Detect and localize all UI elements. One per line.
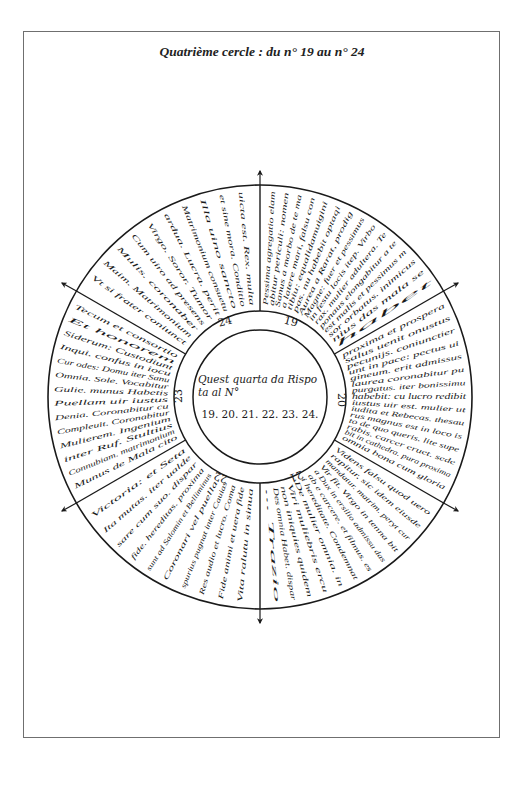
center-line-1: Quest quarta da Rispo	[198, 373, 317, 386]
sector-number-20: 20	[335, 393, 348, 407]
arrow-ene	[444, 283, 458, 291]
arrow-wsw	[62, 503, 76, 511]
arrow-ese	[444, 503, 458, 511]
arrow-wnw	[62, 283, 76, 291]
center-numbers: 19. 20. 21. 22. 23. 24.	[202, 408, 319, 420]
sector-number-23: 23	[172, 389, 185, 403]
center-line-2: ta al N°	[198, 386, 239, 398]
divination-wheel: Pessima agregatio elamabitur periculi: n…	[0, 0, 524, 794]
